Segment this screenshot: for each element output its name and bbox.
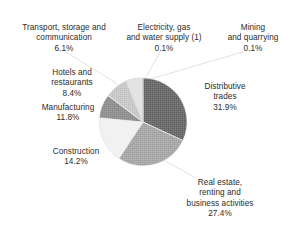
slice-label-construction: Construction 14.2% xyxy=(20,136,132,178)
slice-label-manufacturing-name: Manufacturing xyxy=(42,103,95,112)
slice-label-construction-pct: 14.2% xyxy=(20,157,132,168)
slice-label-construction-name: Construction xyxy=(53,147,100,156)
slice-label-electricity: Electricity, gas and water supply (1) 0.… xyxy=(112,12,216,65)
slice-label-real-estate-name: Real estate, renting and business activi… xyxy=(187,178,254,208)
slice-label-distributive-trades-name: Distributive trades xyxy=(204,82,245,102)
slice-label-electricity-pct: 0.1% xyxy=(112,44,216,55)
slice-label-manufacturing: Manufacturing 11.8% xyxy=(10,92,126,134)
slice-label-real-estate: Real estate, renting and business activi… xyxy=(160,167,280,231)
slice-label-mining-name: Mining and quarrying xyxy=(228,23,279,43)
slice-label-transport-name: Transport, storage and communication xyxy=(22,23,106,43)
slice-label-hotels-name: Hotels and restaurants xyxy=(51,68,93,88)
slice-label-electricity-name: Electricity, gas and water supply (1) xyxy=(126,23,201,43)
slice-label-real-estate-pct: 27.4% xyxy=(160,209,280,220)
slice-label-mining: Mining and quarrying 0.1% xyxy=(216,12,290,65)
slice-label-distributive-trades-pct: 31.9% xyxy=(176,103,274,114)
slice-label-mining-pct: 0.1% xyxy=(216,44,290,55)
slice-label-manufacturing-pct: 11.8% xyxy=(10,113,126,124)
slice-label-transport-pct: 6.1% xyxy=(2,44,126,55)
pie-chart: Transport, storage and communication 6.1… xyxy=(0,0,292,236)
slice-label-distributive-trades: Distributive trades 31.9% xyxy=(176,71,274,124)
